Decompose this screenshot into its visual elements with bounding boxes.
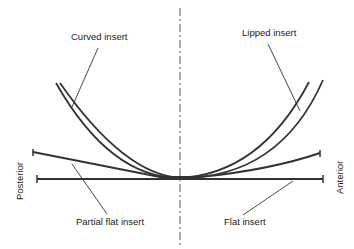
lipped-insert-curve bbox=[178, 82, 309, 178]
anterior-label: Anterior bbox=[334, 161, 345, 194]
insert-profile-diagram bbox=[0, 0, 354, 249]
flat-leader bbox=[243, 181, 293, 215]
lipped-insert-label: Lipped insert bbox=[242, 27, 296, 38]
curved-leader bbox=[72, 48, 98, 107]
posterior-label: Posterior bbox=[14, 162, 25, 200]
partial-flat-leader bbox=[72, 164, 107, 214]
flat-insert-label: Flat insert bbox=[224, 216, 266, 227]
partial-flat-insert-label: Partial flat insert bbox=[76, 216, 144, 227]
curved-insert-curve bbox=[56, 83, 180, 178]
lipped-leader bbox=[268, 44, 300, 111]
partial-flat-insert-curve bbox=[33, 152, 320, 177]
curved-insert-label: Curved insert bbox=[71, 31, 128, 42]
